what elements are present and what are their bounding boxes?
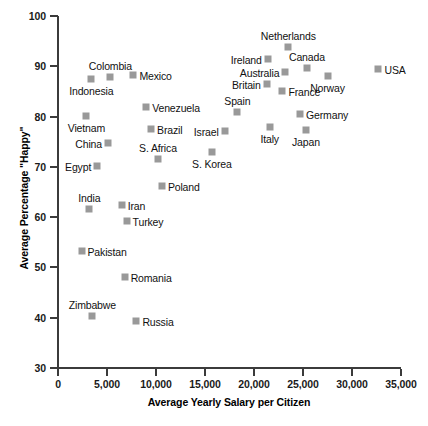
x-tick-label-0: 0	[55, 378, 61, 390]
point-label-colombia: Colombia	[89, 60, 132, 72]
x-tick-20000	[253, 369, 255, 376]
point-label-britain: Britain	[232, 79, 261, 91]
x-tick-30000	[351, 369, 353, 376]
y-tick-60	[50, 216, 58, 218]
x-tick-5000	[106, 369, 108, 376]
point-label-israel: Israel	[194, 126, 219, 138]
y-tick-label-100: 100	[29, 10, 46, 22]
marker-france	[279, 88, 286, 95]
x-tick-10000	[155, 369, 157, 376]
y-tick-label-40: 40	[35, 312, 46, 324]
marker-indonesia	[88, 75, 95, 82]
point-label-pakistan: Pakistan	[88, 246, 127, 258]
x-tick-label-10000: 10,000	[140, 378, 172, 390]
marker-turkey	[123, 218, 130, 225]
y-tick-label-60: 60	[35, 211, 46, 223]
point-label-spain: Spain	[224, 95, 250, 107]
marker-norway	[324, 73, 331, 80]
y-tick-70	[50, 166, 58, 168]
point-label-iran: Iran	[128, 200, 146, 212]
x-tick-35000	[400, 369, 402, 376]
scatter-plot: 30405060708090100 05,00010,00015,00020,0…	[0, 0, 428, 426]
point-label-zimbabwe: Zimbabwe	[69, 299, 116, 311]
point-label-poland: Poland	[168, 181, 200, 193]
marker-s-africa	[154, 156, 161, 163]
y-tick-100	[50, 15, 58, 17]
point-label-germany: Germany	[306, 109, 348, 121]
x-tick-label-25000: 25,000	[287, 378, 319, 390]
point-label-s-korea: S. Korea	[192, 158, 232, 170]
point-label-romania: Romania	[131, 272, 172, 284]
marker-brazil	[148, 125, 155, 132]
x-tick-label-30000: 30,000	[336, 378, 368, 390]
y-axis-title: Average Percentage "Happy"	[18, 88, 30, 308]
marker-mexico	[130, 72, 137, 79]
marker-colombia	[107, 73, 114, 80]
point-label-italy: Italy	[260, 133, 279, 145]
x-tick-label-15000: 15,000	[189, 378, 221, 390]
marker-japan	[302, 127, 309, 134]
x-tick-label-35000: 35,000	[385, 378, 417, 390]
marker-india	[86, 206, 93, 213]
marker-canada	[303, 64, 310, 71]
point-label-venezuela: Venezuela	[152, 102, 200, 114]
marker-egypt	[94, 162, 101, 169]
point-label-vietnam: Vietnam	[68, 122, 105, 134]
point-label-turkey: Turkey	[133, 216, 164, 228]
marker-s-korea	[208, 148, 215, 155]
point-label-brazil: Brazil	[157, 124, 182, 136]
marker-britain	[263, 80, 270, 87]
point-label-india: India	[78, 192, 100, 204]
marker-israel	[221, 127, 228, 134]
marker-russia	[133, 318, 140, 325]
y-tick-90	[50, 65, 58, 67]
x-tick-label-20000: 20,000	[238, 378, 270, 390]
marker-vietnam	[83, 112, 90, 119]
marker-zimbabwe	[89, 312, 96, 319]
point-label-australia: Australia	[240, 67, 280, 79]
x-tick-25000	[302, 369, 304, 376]
marker-ireland	[264, 55, 271, 62]
point-label-mexico: Mexico	[139, 70, 171, 82]
marker-china	[104, 139, 111, 146]
marker-australia	[282, 68, 289, 75]
point-label-ireland: Ireland	[231, 54, 262, 66]
point-label-usa: USA	[384, 64, 405, 76]
x-tick-15000	[204, 369, 206, 376]
y-tick-50	[50, 266, 58, 268]
point-label-netherlands: Netherlands	[261, 30, 316, 42]
point-label-egypt: Egypt	[65, 161, 91, 173]
point-label-china: China	[75, 138, 102, 150]
marker-iran	[118, 202, 125, 209]
point-label-russia: Russia	[142, 316, 173, 328]
point-label-japan: Japan	[292, 136, 320, 148]
marker-pakistan	[78, 248, 85, 255]
x-tick-0	[57, 369, 59, 376]
marker-netherlands	[285, 44, 292, 51]
marker-italy	[266, 124, 273, 131]
x-tick-label-5000: 5,000	[94, 378, 120, 390]
marker-spain	[234, 108, 241, 115]
point-label-s-africa: S. Africa	[139, 142, 177, 154]
marker-romania	[121, 274, 128, 281]
x-axis-line	[57, 367, 401, 369]
y-tick-label-50: 50	[35, 261, 46, 273]
y-tick-label-80: 80	[35, 111, 46, 123]
marker-germany	[297, 110, 304, 117]
x-axis-title: Average Yearly Salary per Citizen	[57, 396, 401, 408]
marker-venezuela	[143, 103, 150, 110]
y-tick-40	[50, 317, 58, 319]
y-tick-80	[50, 116, 58, 118]
point-label-indonesia: Indonesia	[69, 85, 113, 97]
point-label-france: France	[288, 86, 320, 98]
y-tick-label-70: 70	[35, 161, 46, 173]
point-label-canada: Canada	[289, 51, 325, 63]
marker-poland	[158, 182, 165, 189]
y-tick-label-90: 90	[35, 60, 46, 72]
marker-usa	[375, 65, 382, 72]
y-tick-label-30: 30	[35, 362, 46, 374]
